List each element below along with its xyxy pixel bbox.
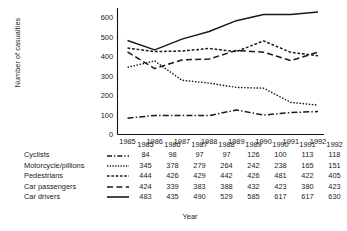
y-tick-label: 600 xyxy=(101,13,113,22)
table-cell-value: 242 xyxy=(240,161,267,171)
y-tick-label-group: 0100200300400500600 xyxy=(101,13,113,139)
table-cell-value: 429 xyxy=(186,171,213,181)
table-header-year: 1990 xyxy=(267,140,294,150)
table-cell-value: 585 xyxy=(240,192,267,202)
series-line-car-passengers xyxy=(128,50,319,68)
table-cell-value: 529 xyxy=(213,192,240,202)
table-header-year: 1986 xyxy=(159,140,186,150)
header-spacer-label xyxy=(0,140,104,150)
table-cell-value: 345 xyxy=(132,161,159,171)
table-cell-value: 405 xyxy=(321,171,347,181)
table-cell-value: 442 xyxy=(213,171,240,181)
y-tick-label: 500 xyxy=(101,33,113,42)
table-cell-value: 423 xyxy=(267,182,294,192)
table-row: Motorcycle/pillions345378279264242238165… xyxy=(0,161,347,171)
table-cell-value: 151 xyxy=(321,161,347,171)
table-row: Pedestrians444426429442426481422405 xyxy=(0,171,347,181)
legend-key-cell xyxy=(104,192,132,202)
x-axis-title: Year xyxy=(0,212,330,221)
table-header-year: 1989 xyxy=(240,140,267,150)
table-row: Cyclists84989797126100113118 xyxy=(0,150,347,160)
table-cell-value: 238 xyxy=(267,161,294,171)
table-header-year: 1987 xyxy=(186,140,213,150)
series-name-label: Motorcycle/pillions xyxy=(0,161,104,171)
table-cell-value: 264 xyxy=(213,161,240,171)
table-cell-value: 339 xyxy=(159,182,186,192)
table-cell-value: 432 xyxy=(240,182,267,192)
series-name-label: Pedestrians xyxy=(0,171,104,181)
header-spacer-key xyxy=(104,140,132,150)
legend-data-table-wrap: 19851986198719881989199019911992 Cyclist… xyxy=(0,140,330,231)
long-dashed-line-icon xyxy=(106,183,130,191)
series-line-cyclists xyxy=(128,110,319,118)
legend-data-table: 19851986198719881989199019911992 Cyclist… xyxy=(0,140,347,202)
legend-key-cell xyxy=(104,161,132,171)
legend-key-cell xyxy=(104,150,132,160)
table-cell-value: 100 xyxy=(267,150,294,160)
short-dashed-line-icon xyxy=(106,172,130,180)
solid-line-icon xyxy=(106,193,130,201)
dotted-line-icon xyxy=(106,162,130,170)
series-name-label: Cyclists xyxy=(0,150,104,160)
table-cell-value: 388 xyxy=(213,182,240,192)
y-tick-label: 300 xyxy=(101,72,113,81)
table-cell-value: 97 xyxy=(213,150,240,160)
table-head: 19851986198719881989199019911992 xyxy=(0,140,347,150)
series-name-label: Car passengers xyxy=(0,182,104,192)
line-chart-svg: 0100200300400500600 19851986198719881989… xyxy=(0,0,330,145)
y-tick-label: 200 xyxy=(101,91,113,100)
table-cell-value: 378 xyxy=(159,161,186,171)
plot-area: Number of casualties 0100200300400500600… xyxy=(0,0,330,145)
y-tick-label: 100 xyxy=(101,111,113,120)
table-cell-value: 481 xyxy=(267,171,294,181)
table-header-year: 1985 xyxy=(132,140,159,150)
table-cell-value: 279 xyxy=(186,161,213,171)
table-cell-value: 165 xyxy=(294,161,321,171)
table-cell-value: 617 xyxy=(267,192,294,202)
table-header-year: 1992 xyxy=(321,140,347,150)
table-cell-value: 444 xyxy=(132,171,159,181)
table-cell-value: 423 xyxy=(321,182,347,192)
table-header-year: 1991 xyxy=(294,140,321,150)
series-name-label: Car drivers xyxy=(0,192,104,202)
series-line-car-drivers xyxy=(128,12,319,50)
table-cell-value: 383 xyxy=(186,182,213,192)
table-cell-value: 617 xyxy=(294,192,321,202)
table-cell-value: 426 xyxy=(159,171,186,181)
table-header-year: 1988 xyxy=(213,140,240,150)
series-path-group xyxy=(128,12,319,118)
table-header-row: 19851986198719881989199019911992 xyxy=(0,140,347,150)
table-cell-value: 98 xyxy=(159,150,186,160)
table-cell-value: 426 xyxy=(240,171,267,181)
table-cell-value: 126 xyxy=(240,150,267,160)
table-cell-value: 630 xyxy=(321,192,347,202)
table-cell-value: 380 xyxy=(294,182,321,192)
legend-key-cell xyxy=(104,182,132,192)
table-row: Car drivers483435490529585617617630 xyxy=(0,192,347,202)
y-tick-label: 0 xyxy=(109,130,113,139)
y-tick-label: 400 xyxy=(101,52,113,61)
legend-key-cell xyxy=(104,171,132,181)
table-cell-value: 490 xyxy=(186,192,213,202)
table-cell-value: 118 xyxy=(321,150,347,160)
table-body: Cyclists84989797126100113118Motorcycle/p… xyxy=(0,150,347,202)
table-cell-value: 422 xyxy=(294,171,321,181)
series-line-pedestrians xyxy=(128,41,319,56)
table-cell-value: 97 xyxy=(186,150,213,160)
table-cell-value: 84 xyxy=(132,150,159,160)
table-cell-value: 113 xyxy=(294,150,321,160)
table-cell-value: 483 xyxy=(132,192,159,202)
table-cell-value: 435 xyxy=(159,192,186,202)
table-cell-value: 424 xyxy=(132,182,159,192)
table-row: Car passengers424339383388432423380423 xyxy=(0,182,347,192)
dash-dot-line-icon xyxy=(106,152,130,160)
